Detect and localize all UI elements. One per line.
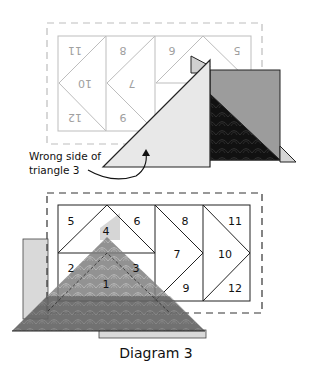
- top-label-8: 8: [120, 44, 127, 57]
- bottom-diagram: 5 4 6 2 3 1 8 7 9 11 10 12: [12, 193, 262, 338]
- bottom-label-6: 6: [134, 215, 141, 228]
- diagram-caption: Diagram 3: [119, 345, 192, 361]
- annotation-line-1: Wrong side of: [29, 150, 101, 162]
- triangle-3-wrong-side: [103, 60, 210, 167]
- top-label-7: 7: [129, 77, 136, 90]
- bottom-label-7: 7: [174, 248, 181, 261]
- bottom-label-5: 5: [68, 215, 75, 228]
- top-label-6: 6: [169, 44, 176, 57]
- bottom-label-11: 11: [228, 215, 242, 228]
- top-light-corner: [280, 146, 296, 162]
- top-label-9: 9: [120, 111, 127, 124]
- diagram-canvas: 11 10 12 8 7 9 6 5 Wrong side of triangl…: [0, 0, 312, 375]
- annotation-line-2: triangle 3: [29, 164, 80, 176]
- bottom-label-12: 12: [228, 282, 242, 295]
- top-label-5: 5: [234, 44, 241, 57]
- top-label-12: 12: [68, 111, 82, 124]
- bottom-label-8: 8: [182, 215, 189, 228]
- bottom-label-1: 1: [103, 278, 110, 291]
- bottom-label-4: 4: [103, 225, 110, 238]
- top-label-11: 11: [68, 44, 82, 57]
- bottom-label-2: 2: [68, 262, 75, 275]
- top-label-10: 10: [78, 77, 92, 90]
- top-diagram: 11 10 12 8 7 9 6 5 Wrong side of triangl…: [29, 23, 296, 179]
- bottom-label-9: 9: [183, 282, 190, 295]
- bottom-label-10: 10: [218, 248, 232, 261]
- bottom-label-3: 3: [133, 262, 140, 275]
